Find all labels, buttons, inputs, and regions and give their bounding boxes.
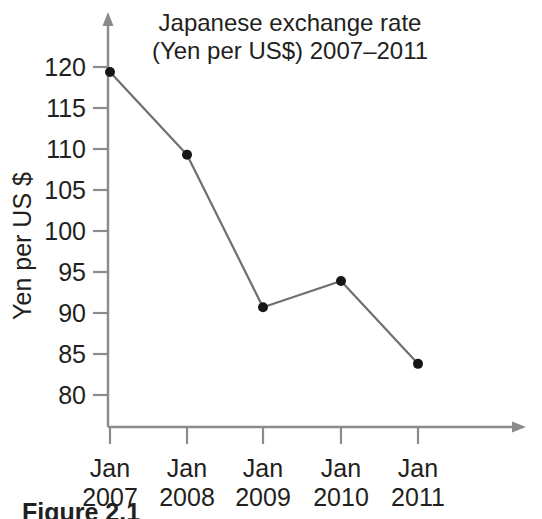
y-tick-marks bbox=[93, 67, 108, 395]
y-tick-label: 100 bbox=[44, 217, 86, 245]
y-tick-label: 105 bbox=[44, 176, 86, 204]
series-line-yen-per-usd bbox=[110, 72, 418, 364]
y-tick-label: 85 bbox=[58, 340, 86, 368]
y-tick-label: 120 bbox=[44, 53, 86, 81]
y-axis-arrow-icon bbox=[103, 12, 114, 26]
x-axis-arrow-icon bbox=[512, 422, 526, 433]
series-data-point bbox=[336, 276, 346, 286]
series-markers bbox=[105, 67, 423, 369]
figure-container: Japanese exchange rate (Yen per US$) 200… bbox=[0, 0, 542, 519]
x-tick-label-month: Jan bbox=[321, 454, 361, 482]
x-tick-label-month: Jan bbox=[90, 454, 130, 482]
axes-group bbox=[103, 12, 527, 433]
series-data-point bbox=[182, 150, 192, 160]
y-tick-label: 95 bbox=[58, 258, 86, 286]
y-axis-title: Yen per US $ bbox=[8, 172, 36, 320]
series-data-point bbox=[105, 67, 115, 77]
figure-caption: Figure 2.1 bbox=[22, 500, 140, 519]
y-tick-label: 90 bbox=[58, 299, 86, 327]
chart-title-line-2: (Yen per US$) 2007–2011 bbox=[152, 37, 428, 64]
x-tick-label-month: Jan bbox=[167, 454, 207, 482]
y-tick-label: 110 bbox=[46, 135, 86, 163]
series-data-point bbox=[258, 302, 268, 312]
chart-title-line-1: Japanese exchange rate bbox=[159, 9, 422, 36]
line-chart: Japanese exchange rate (Yen per US$) 200… bbox=[0, 0, 542, 519]
series-data-point bbox=[413, 359, 423, 369]
y-tick-label: 115 bbox=[46, 94, 86, 122]
x-tick-marks bbox=[110, 427, 418, 444]
x-tick-label-year: 2009 bbox=[235, 483, 291, 511]
x-tick-label-year: 2011 bbox=[391, 483, 445, 511]
x-tick-label-month: Jan bbox=[243, 454, 283, 482]
x-tick-label-year: 2010 bbox=[313, 483, 369, 511]
y-tick-labels: 120 115 110 105 100 95 90 85 80 bbox=[44, 53, 86, 409]
x-tick-label-year: 2008 bbox=[159, 483, 215, 511]
x-tick-label-month: Jan bbox=[398, 454, 438, 482]
y-tick-label: 80 bbox=[58, 381, 86, 409]
